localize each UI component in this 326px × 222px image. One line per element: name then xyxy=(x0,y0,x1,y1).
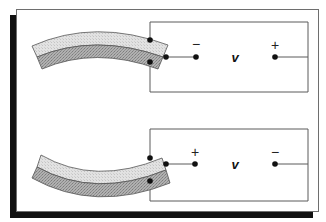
top-terminal-left-dot xyxy=(193,54,199,60)
top-right-polarity: + xyxy=(271,37,279,53)
bottom-electrode-dot-lower xyxy=(147,178,153,184)
bottom-voltage-label: v xyxy=(231,157,239,172)
bottom-terminal-left-dot xyxy=(192,161,198,167)
bottom-electrode-dot-upper xyxy=(147,155,153,161)
top-electrode-dot-lower xyxy=(147,59,153,65)
bottom-terminal-right-dot xyxy=(272,161,278,167)
top-electrode-dot-upper xyxy=(147,37,153,43)
bottom-right-polarity: − xyxy=(271,144,279,160)
top-strip-end-dot xyxy=(163,54,169,60)
top-terminal-right-dot xyxy=(272,54,278,60)
top-left-polarity: − xyxy=(192,36,200,52)
bottom-left-polarity: + xyxy=(191,144,199,160)
bimorph-diagram: − v + + v − xyxy=(0,0,326,222)
bottom-strip-end-dot xyxy=(163,161,169,167)
top-voltage-label: v xyxy=(231,50,239,65)
